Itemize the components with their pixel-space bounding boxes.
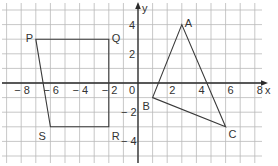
vertex-label-r: R: [112, 130, 120, 142]
y-axis-arrow-icon: [135, 2, 141, 9]
x-tick-label: − 8: [14, 84, 30, 96]
y-tick-label: 2: [129, 48, 135, 60]
vertex-label-b: B: [143, 100, 150, 112]
vertex-label-c: C: [229, 128, 237, 140]
vertex-label-a: A: [185, 17, 193, 29]
x-tick-label: 8: [257, 84, 263, 96]
y-tick-label: − 4: [121, 135, 137, 147]
x-axis-label: x: [265, 84, 271, 96]
y-tick-label: − 2: [121, 106, 137, 118]
x-tick-label: 2: [169, 84, 175, 96]
vertex-label-q: Q: [112, 32, 121, 44]
coordinate-grid-diagram: − 8− 6− 4− 202468x42− 2− 4yPQRSABC: [0, 0, 278, 166]
y-tick-label: 4: [129, 19, 135, 31]
vertex-label-s: S: [38, 130, 45, 142]
x-tick-label: − 6: [43, 84, 59, 96]
x-tick-label: 0: [129, 84, 135, 96]
triangle-ABC: [153, 25, 226, 127]
vertex-label-p: P: [26, 32, 33, 44]
x-tick-label: 4: [198, 84, 204, 96]
labels: − 8− 6− 4− 202468x42− 2− 4yPQRSABC: [14, 2, 271, 147]
x-tick-label: − 4: [73, 84, 89, 96]
x-tick-label: 6: [228, 84, 234, 96]
x-tick-label: − 2: [102, 84, 118, 96]
y-axis-label: y: [142, 2, 148, 14]
